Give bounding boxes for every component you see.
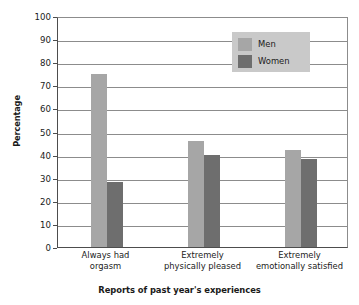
bar-women-1: [204, 155, 220, 247]
legend-swatch-men: [238, 38, 252, 51]
y-tick-label: 40: [40, 151, 51, 161]
y-tick-mark: [53, 248, 57, 249]
x-label-line1: Extremely: [230, 250, 359, 261]
y-tick-label: 80: [40, 58, 51, 68]
x-axis-label-2: Extremelyemotionally satisfied: [230, 250, 359, 271]
bar-men-2: [285, 150, 301, 247]
bar-men-0: [91, 74, 107, 247]
bar-chart: Percentage 0102030405060708090100 Always…: [0, 0, 359, 305]
y-tick-label: 10: [40, 220, 51, 230]
bar-men-1: [188, 141, 204, 247]
y-tick-label: 50: [40, 128, 51, 138]
legend-item-women: Women: [238, 53, 290, 69]
legend-item-men: Men: [238, 36, 276, 52]
bar-women-0: [107, 182, 123, 247]
y-tick-label: 20: [40, 197, 51, 207]
y-tick-label: 90: [40, 35, 51, 45]
chart-legend: Men Women: [232, 32, 310, 72]
legend-label-men: Men: [258, 39, 276, 49]
y-tick-label: 60: [40, 104, 51, 114]
y-tick-label: 30: [40, 174, 51, 184]
legend-label-women: Women: [258, 56, 290, 66]
x-axis-category-labels: Always hadorgasmExtremelyphysically plea…: [57, 250, 348, 280]
x-label-line2: emotionally satisfied: [230, 261, 359, 272]
legend-swatch-women: [238, 55, 252, 68]
bar-women-2: [301, 159, 317, 247]
y-tick-label: 70: [40, 81, 51, 91]
y-tick-label: 100: [35, 12, 51, 22]
x-axis-title: Reports of past year's experiences: [0, 285, 359, 295]
